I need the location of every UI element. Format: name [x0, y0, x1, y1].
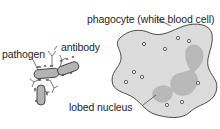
antibody-label: antibody [61, 42, 100, 53]
immune-diagram: phagocyte (white blood cell) pathogen an… [0, 0, 220, 129]
pathogen-1 [34, 68, 60, 79]
pathogen-label: pathogen [2, 49, 45, 60]
pathogen-2 [56, 60, 80, 76]
nucleus-label: lobed nucleus [69, 102, 133, 113]
phagocyte-label: phagocyte (white blood cell) [87, 14, 214, 25]
pathogen-3 [37, 85, 45, 105]
